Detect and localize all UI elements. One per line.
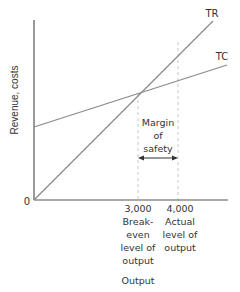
tick-3000: 3,000 [124,203,151,214]
margin-text-1: Margin [142,117,174,128]
y-axis-label: Revenue, costs [9,66,20,135]
actual-caption-3: output [164,242,196,253]
margin-text-3: safety [143,143,173,154]
actual-caption-1: Actual [165,216,195,227]
x-axis-label: Output [122,275,155,286]
tc-label: TC [215,51,229,62]
tr-line [34,21,213,200]
tc-line [34,65,227,127]
tick-4000: 4,000 [166,203,193,214]
breakeven-caption-1: Break- [123,216,154,227]
arrow-left-icon [138,156,144,161]
arrow-right-icon [172,156,178,161]
breakeven-chart: TR TC 0 Revenue, costs Margin of safety … [0,0,240,292]
origin-label: 0 [24,196,30,207]
breakeven-caption-3: level of [121,242,156,253]
actual-caption-2: level of [163,229,198,240]
margin-text-2: of [153,130,163,141]
tr-label: TR [204,8,218,19]
breakeven-caption-4: output [122,255,154,266]
breakeven-caption-2: even [126,229,149,240]
